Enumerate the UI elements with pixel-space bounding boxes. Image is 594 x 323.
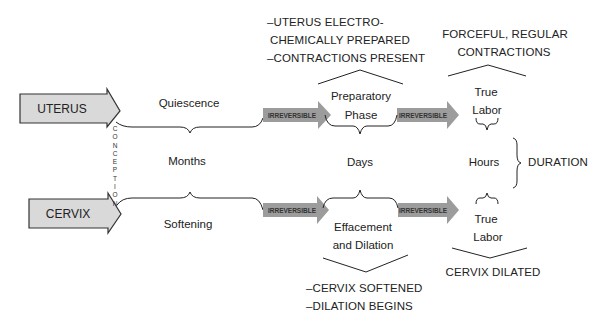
annotation-uterus-prepared-line2: CHEMICALLY PREPARED [270,35,410,47]
cervix-labor-brace [476,193,498,204]
irreversible-label: IRREVERSIBLE [268,207,316,214]
uterus-label: UTERUS [37,102,86,116]
duration-days: Days [347,157,373,169]
conception-letter: O [111,133,119,141]
stage-cervix-true-labor-line1: True [474,214,497,226]
stage-preparatory-line1: Preparatory [331,91,391,103]
stage-quiescence: Quiescence [159,98,220,110]
annotation-uterus-labor-line1: FORCEFUL, REGULAR [442,29,568,41]
duration-summary-label: DURATION [528,157,588,169]
annotation-cervix-labor: CERVIX DILATED [446,267,541,279]
conception-letter: E [111,158,119,166]
duration-hours: Hours [469,157,500,169]
conception-letter: T [111,175,119,183]
stage-uterus-true-labor-line1: True [474,87,497,99]
stage-effacement-line1: Effacement [334,222,392,234]
cervix-labor-caret [452,248,527,258]
irreversible-label: IRREVERSIBLE [268,112,316,119]
effacement-brace [323,190,398,208]
duration-brace [513,138,521,188]
softening-brace [117,192,263,210]
conception-letter: P [111,166,119,174]
conception-letter: O [111,191,119,199]
conception-letter: C [111,125,119,133]
cervix-label: CERVIX [46,207,90,221]
uterus-prepared-caret [318,70,403,84]
quiescence-brace [116,118,263,133]
irreversible-label: IRREVERSIBLE [399,112,447,119]
irreversible-label: IRREVERSIBLE [399,207,447,214]
stage-cervix-true-labor-line2: Labor [473,232,502,244]
annotation-uterus-prepared-line3: –CONTRACTIONS PRESENT [267,53,425,65]
annotation-cervix-prepared-line1: –CERVIX SOFTENED [306,283,422,295]
conception-letter: N [111,142,119,150]
uterus-labor-caret [448,65,526,76]
stage-effacement-line2: and Dilation [333,240,394,252]
labor-phases-diagram: UTERUS CERVIX C O N C E P T I O N Quiesc… [0,0,594,323]
uterus-labor-brace [476,118,498,130]
conception-letter: I [111,183,119,191]
stage-uterus-true-labor-line2: Labor [472,105,501,117]
conception-marker: C O N C E P T I O N [111,125,119,208]
annotation-uterus-labor-line2: CONTRACTIONS [457,47,550,59]
stage-softening: Softening [164,219,213,231]
stage-preparatory-line2: Phase [345,110,378,122]
annotation-uterus-prepared-line1: –UTERUS ELECTRO- [267,17,384,29]
conception-letter: C [111,150,119,158]
duration-months: Months [168,156,206,168]
conception-letter: N [111,200,119,208]
annotation-cervix-prepared-line2: –DILATION BEGINS [306,301,413,313]
cervix-prepared-caret [323,255,408,272]
